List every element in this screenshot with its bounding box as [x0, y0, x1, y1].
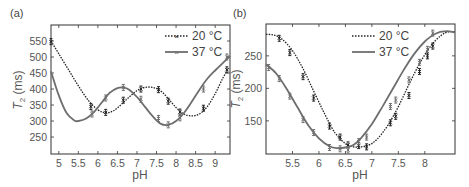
panel-b-x-label: pH — [352, 168, 367, 182]
data-point-marker-icon — [301, 74, 304, 80]
panel-b-y-axis: 150200250 — [244, 50, 455, 127]
x-tick-label: 7.5 — [149, 157, 164, 169]
y-tick-label: 200 — [244, 82, 262, 94]
data-point-marker-icon — [426, 53, 429, 59]
y-tick-label: 250 — [244, 50, 262, 62]
data-point-marker-icon — [225, 67, 228, 73]
panel-b-legend: 20 °C 37 °C — [352, 29, 409, 59]
data-point-marker-icon — [394, 97, 397, 103]
x-tick-label: 7 — [369, 157, 375, 169]
y-tick-label: 450 — [29, 67, 47, 79]
y-tick-label: 300 — [29, 115, 47, 127]
legend-20c-label: 20 °C — [192, 29, 222, 43]
panel-a-x-label: pH — [132, 168, 147, 182]
x-tick-label: 6 — [316, 157, 322, 169]
x-tick-label: 9 — [212, 157, 218, 169]
y-tick-label: 250 — [29, 131, 47, 143]
figure: (a) 55.566.577.588.59 250300350400450500… — [0, 0, 469, 187]
data-point-marker-icon — [365, 144, 368, 150]
legend-20c-label: 20 °C — [379, 29, 409, 43]
data-point-marker-icon — [389, 104, 392, 110]
x-tick-label: 8 — [422, 157, 428, 169]
data-point-marker-icon — [407, 93, 410, 99]
y-tick-label: 400 — [29, 83, 47, 95]
data-point-marker-icon — [418, 68, 421, 74]
y-tick-label: 500 — [29, 51, 47, 63]
x-tick-label: 5 — [56, 157, 62, 169]
legend-37c-label: 37 °C — [192, 45, 222, 59]
data-point-marker-icon — [278, 35, 281, 41]
panel-b-plot-area — [266, 24, 455, 154]
panel-a-legend: × 20 °C × 37 °C — [165, 29, 222, 59]
panel-b-series — [266, 30, 455, 153]
data-point-marker-icon — [288, 50, 291, 56]
x-tick-label: 8.5 — [188, 157, 203, 169]
panel-a-y-label: T2 (ms) — [11, 70, 27, 109]
data-point-marker-icon — [139, 86, 142, 92]
x-tick-label: 8 — [173, 157, 179, 169]
x-tick-label: 7.5 — [391, 157, 406, 169]
y-tick-label: 550 — [29, 35, 47, 47]
panel-a-label: (a) — [10, 7, 23, 19]
y-tick-label: 150 — [244, 115, 262, 127]
x-tick-label: 5.5 — [285, 157, 300, 169]
x-tick-label: 6.5 — [338, 157, 353, 169]
panel-b-chart: (b) 5.566.577.58 150200250 pH T2 (ms) 20… — [229, 7, 455, 182]
x-tick-label: 5.5 — [71, 157, 86, 169]
panel-b-label: (b) — [233, 7, 246, 19]
x-tick-label: 6.5 — [110, 157, 125, 169]
panel-b-y-label: T2 (ms) — [229, 69, 245, 108]
panel-a-chart: (a) 55.566.577.588.59 250300350400450500… — [10, 7, 230, 182]
data-point-marker-icon — [178, 109, 181, 115]
data-point-marker-icon — [365, 134, 368, 140]
legend-20c-marker-icon: × — [174, 32, 179, 41]
x-tick-label: 6 — [95, 157, 101, 169]
legend-37c-label: 37 °C — [379, 45, 409, 59]
data-point-marker-icon — [312, 95, 315, 101]
legend-37c-marker-icon: × — [174, 48, 179, 57]
y-tick-label: 350 — [29, 99, 47, 111]
